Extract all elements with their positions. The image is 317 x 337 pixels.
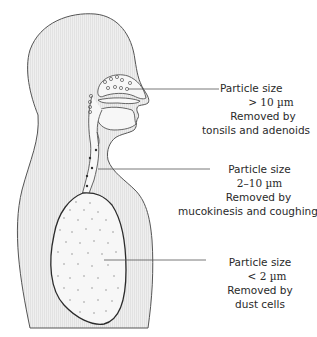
size-label: Particle size — [178, 162, 317, 176]
annotation-small-particles: Particle size < 2 µm Removed by dust cel… — [210, 255, 310, 311]
size-value: 2–10 µm — [178, 176, 317, 190]
annotation-large-particles: Particle size > 10 µm Removed by tonsils… — [196, 81, 316, 137]
size-label: Particle size — [196, 81, 316, 95]
mechanism: mucokinesis and coughing — [178, 204, 317, 218]
size-label: Particle size — [210, 255, 310, 269]
mechanism: tonsils and adenoids — [196, 123, 316, 137]
removed-label: Removed by — [210, 283, 310, 297]
size-value: > 10 µm — [196, 95, 316, 109]
size-value: < 2 µm — [210, 269, 310, 283]
removed-label: Removed by — [178, 190, 317, 204]
removed-label: Removed by — [196, 109, 316, 123]
annotation-medium-particles: Particle size 2–10 µm Removed by mucokin… — [178, 162, 317, 218]
mechanism: dust cells — [210, 297, 310, 311]
